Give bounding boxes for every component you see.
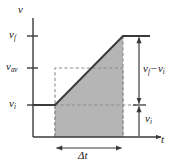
x-axis-label: t [161, 134, 164, 145]
y-tick-label-vf: vf [9, 29, 16, 42]
y-axis-label: v [18, 4, 23, 15]
y-tick-label-vav-sub: av [11, 66, 17, 74]
annotation-delta-t-main: t [84, 149, 87, 161]
annotation-vi: vi [145, 113, 152, 126]
graph-canvas [0, 0, 176, 167]
annotation-delta-v-operator: − [150, 62, 158, 74]
annotation-vi-sub: i [150, 118, 152, 126]
shaded-displacement-area [55, 36, 123, 137]
annotation-delta-t: Δt [78, 150, 88, 161]
y-tick-label-vav: vav [6, 61, 17, 74]
annotation-delta-v-sub-b: i [163, 68, 165, 76]
annotation-delta-v: vf−vi [143, 63, 165, 76]
y-tick-label-vi-sub: i [14, 103, 16, 111]
velocity-time-figure: v t vf vav vi vf−vi vi Δt [0, 0, 176, 167]
y-tick-label-vf-sub: f [14, 34, 16, 42]
y-tick-label-vi: vi [9, 98, 16, 111]
